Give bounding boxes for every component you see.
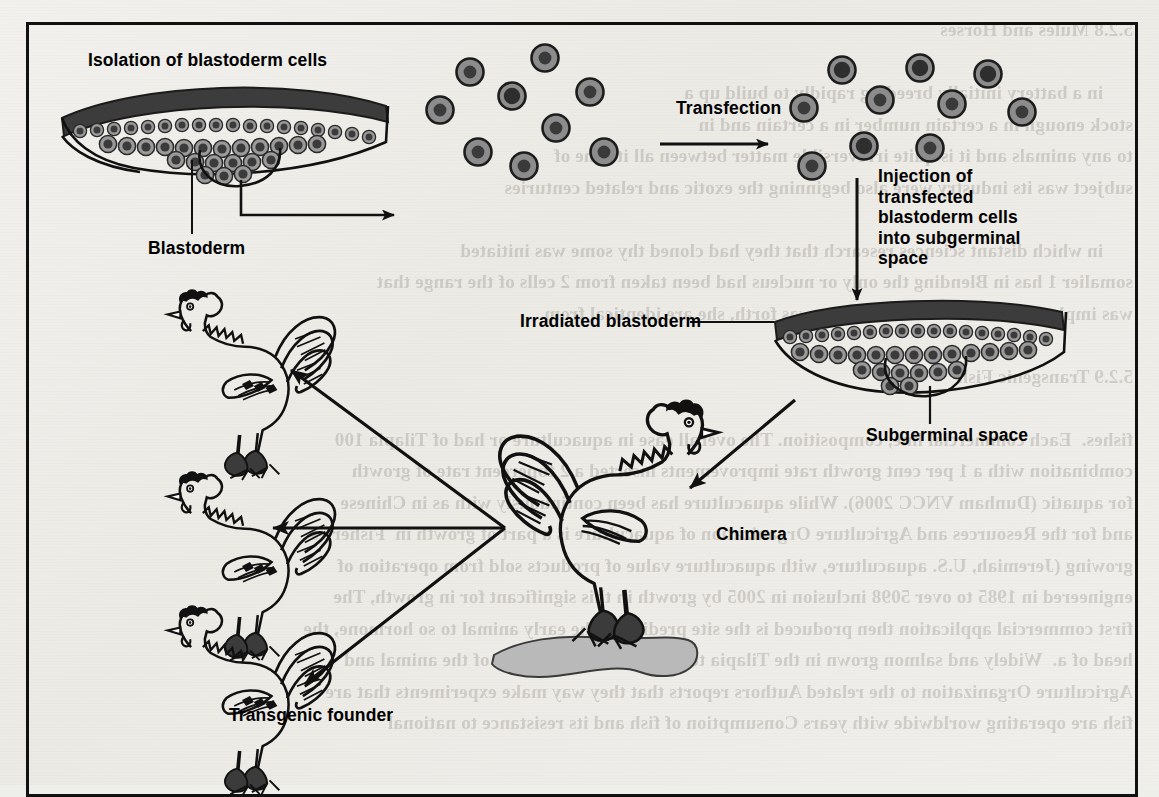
label-isolation: Isolation of blastoderm cells xyxy=(88,50,327,71)
label-chimera: Chimera xyxy=(716,524,787,545)
figure-frame xyxy=(26,22,1138,797)
label-injection: Injection of transfected blastoderm cell… xyxy=(878,166,1021,269)
label-subgerminal-space: Subgerminal space xyxy=(866,425,1028,446)
label-transfection: Transfection xyxy=(676,98,781,119)
label-transgenic-founder: Transgenic founder xyxy=(229,705,393,726)
label-blastoderm: Blastoderm xyxy=(148,238,245,259)
label-irradiated-blastoderm: Irradiated blastoderm xyxy=(520,311,701,332)
